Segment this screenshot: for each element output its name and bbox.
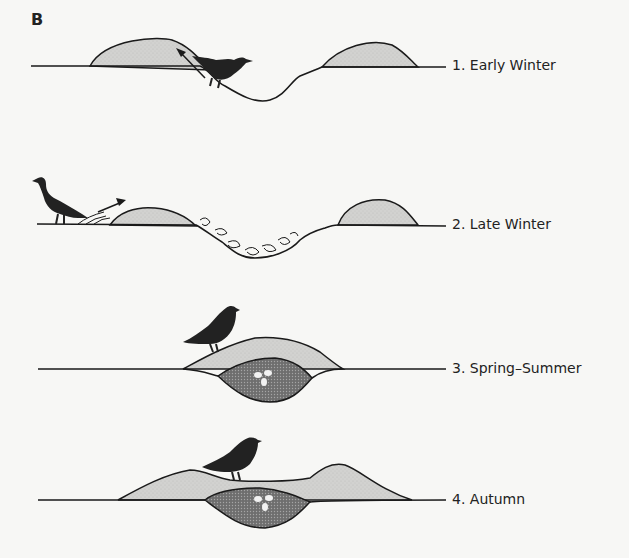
bird-icon xyxy=(202,438,262,480)
bird-icon xyxy=(32,177,88,224)
bird-icon xyxy=(192,56,253,88)
stage-1-early-winter xyxy=(31,38,446,101)
stage-label-spring-summer: 3. Spring–Summer xyxy=(452,360,581,376)
stage-label-early-winter: 1. Early Winter xyxy=(452,57,556,73)
sand-mound-right xyxy=(322,43,418,67)
stage-label-late-winter: 2. Late Winter xyxy=(452,216,551,232)
ground-line xyxy=(31,66,446,101)
stage-label-autumn: 4. Autumn xyxy=(452,491,525,507)
stage-2-late-winter xyxy=(32,177,446,258)
sand-mound-left xyxy=(110,208,196,226)
stage-4-autumn xyxy=(38,438,446,528)
sand-mound-right xyxy=(338,200,418,225)
ground-line xyxy=(37,224,446,258)
mound-diagram xyxy=(0,0,629,558)
stage-3-spring-summer xyxy=(38,306,446,402)
